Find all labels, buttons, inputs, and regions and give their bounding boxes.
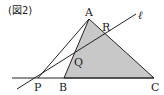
label-q: Q (74, 56, 83, 69)
label-r: R (102, 21, 111, 34)
label-b: B (59, 81, 67, 94)
label-line-l: ℓ (138, 9, 143, 22)
figure-caption: (図2) (8, 5, 32, 16)
label-p: P (34, 81, 42, 94)
label-a: A (84, 6, 94, 19)
geometry-figure: (図2) A R Q P B C ℓ (0, 0, 164, 95)
label-c: C (151, 81, 159, 94)
